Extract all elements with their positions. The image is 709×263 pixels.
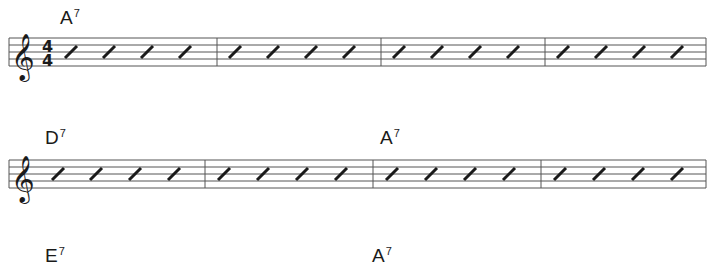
treble-clef-icon: 𝄞 xyxy=(11,33,35,82)
staff: 𝄞 xyxy=(0,120,709,210)
staff: 𝄞 4 4 xyxy=(0,0,709,90)
svg-text:4: 4 xyxy=(42,51,53,70)
chord-symbol: A7 xyxy=(372,246,392,263)
treble-clef-icon: 𝄞 xyxy=(11,155,35,204)
svg-text:𝄞: 𝄞 xyxy=(11,33,35,82)
time-signature-icon: 4 4 xyxy=(42,37,53,70)
staff-system-2: D7 A7 𝄞 xyxy=(0,120,709,210)
chord-symbol: E7 xyxy=(45,246,65,263)
staff-system-1: A7 𝄞 4 4 xyxy=(0,0,709,90)
staff-system-3: E7 A7 xyxy=(0,238,709,263)
svg-text:𝄞: 𝄞 xyxy=(11,155,35,204)
